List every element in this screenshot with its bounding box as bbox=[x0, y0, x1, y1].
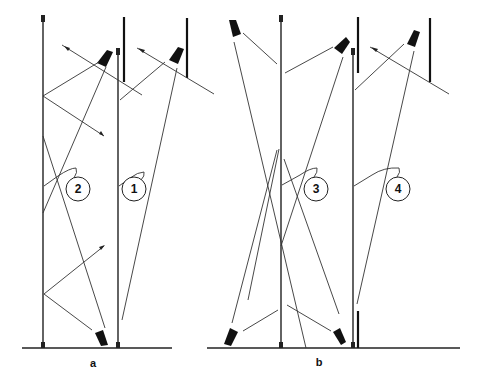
callout-number: 1 bbox=[131, 182, 138, 196]
lamp-icon bbox=[95, 330, 108, 346]
pole-foot-icon bbox=[351, 342, 355, 348]
panel-b: 3 4 b bbox=[207, 15, 460, 368]
pole-foot-icon bbox=[41, 342, 45, 348]
lamp-icon bbox=[407, 30, 420, 47]
lamp-icon bbox=[333, 328, 346, 345]
ray bbox=[355, 44, 404, 90]
ray bbox=[281, 57, 343, 246]
panel-a: 2 1 a bbox=[22, 15, 214, 369]
lighting-diagram: 2 1 a bbox=[0, 0, 480, 386]
callout-number: 4 bbox=[395, 182, 402, 196]
callout-number: 2 bbox=[75, 182, 82, 196]
pole-cap-icon bbox=[41, 15, 45, 22]
panel-label-b: b bbox=[316, 356, 323, 368]
ray bbox=[285, 47, 333, 73]
arrowhead-icon bbox=[99, 131, 104, 136]
pole-foot-icon bbox=[116, 342, 120, 348]
ray bbox=[248, 149, 279, 300]
pole-foot-icon bbox=[279, 342, 283, 348]
ray bbox=[43, 136, 105, 328]
ray bbox=[43, 62, 99, 96]
callout-number: 3 bbox=[313, 182, 320, 196]
lamp-icon bbox=[229, 20, 241, 37]
ray bbox=[243, 33, 277, 64]
panel-label-a: a bbox=[90, 357, 97, 369]
pole-cap-icon bbox=[279, 15, 283, 22]
ray bbox=[120, 62, 165, 100]
lamp-icon bbox=[169, 47, 184, 64]
lamp-icon bbox=[334, 37, 350, 54]
lamp-icon bbox=[97, 50, 113, 67]
pole-cap-icon bbox=[351, 48, 355, 55]
ray bbox=[243, 310, 278, 331]
ray bbox=[43, 96, 104, 136]
ray bbox=[232, 150, 277, 323]
ray bbox=[357, 51, 414, 304]
pole-cap-icon bbox=[116, 48, 120, 55]
ray bbox=[287, 305, 331, 331]
lamp-icon bbox=[224, 328, 238, 346]
arrowhead-icon bbox=[64, 46, 70, 51]
ray bbox=[44, 294, 92, 330]
reflector-line bbox=[62, 45, 142, 95]
ray bbox=[44, 246, 104, 294]
